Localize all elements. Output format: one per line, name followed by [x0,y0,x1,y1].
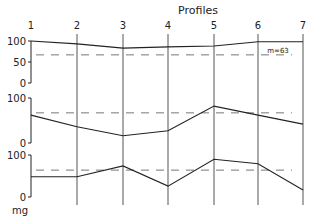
profiles-chart: Profiles 1234567 100500m=6310001000 mg [0,0,310,224]
y-tick-0: 0 [20,192,26,203]
y-tick-100: 100 [7,36,26,47]
x-label-7: 7 [300,20,306,31]
panel-3: 1000 [7,150,303,203]
profile-series [31,41,303,48]
y-tick-100: 100 [7,93,26,104]
panels: 100500m=6310001000 [7,36,303,203]
x-label-1: 1 [28,20,34,31]
mean-annotation: m=63 [267,47,289,55]
profile-series [31,106,303,136]
x-label-4: 4 [165,20,171,31]
y-tick-50: 50 [13,57,26,68]
unit-label: mg [12,205,28,216]
chart-title: Profiles [178,4,218,17]
x-label-2: 2 [74,20,80,31]
panel-1: 100500m=63 [7,36,303,89]
x-axis-labels: 1234567 [28,20,306,31]
panel-2: 1000 [7,93,303,149]
x-label-3: 3 [120,20,126,31]
x-label-6: 6 [255,20,261,31]
profile-series [31,159,303,190]
x-label-5: 5 [211,20,217,31]
y-tick-0: 0 [20,78,26,89]
y-tick-100: 100 [7,150,26,161]
y-tick-0: 0 [20,138,26,149]
